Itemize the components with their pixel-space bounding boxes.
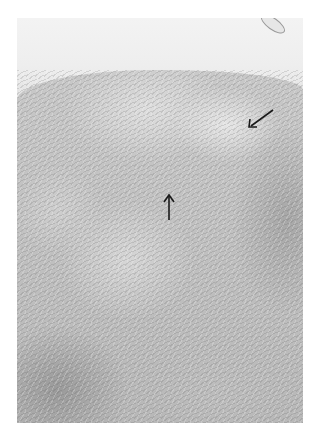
arrow-icon-down-left <box>239 106 279 136</box>
micrograph-image <box>17 18 303 423</box>
arrow-icon-up <box>159 192 179 224</box>
